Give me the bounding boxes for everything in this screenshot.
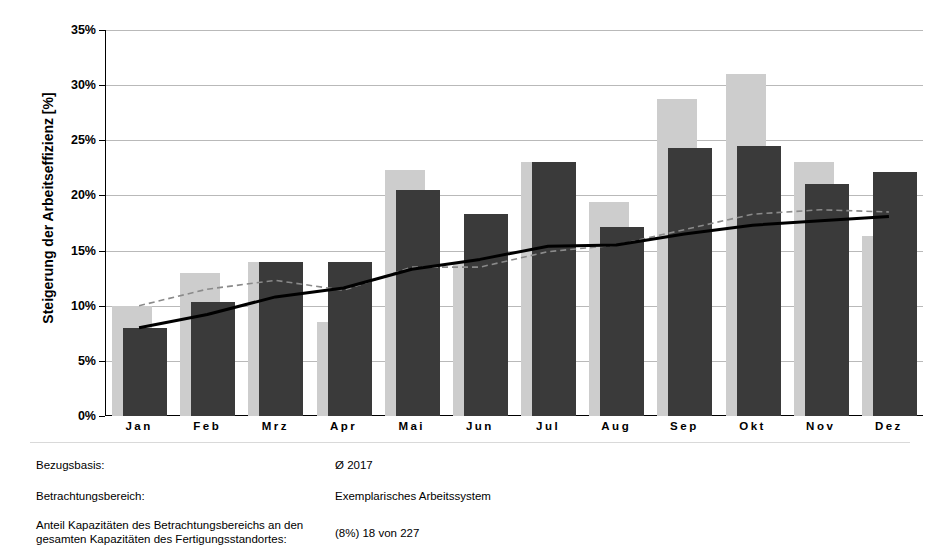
x-tick-label-okt: Okt xyxy=(719,420,787,432)
y-tick-label: 15% xyxy=(52,246,96,256)
plot-region xyxy=(105,30,923,416)
chart-page: Steigerung der Arbeitseffizienz [%] 0%5%… xyxy=(0,0,940,559)
average-lines xyxy=(105,30,923,416)
x-tick-label-dez: Dez xyxy=(855,420,923,432)
footer-label-kapazitaetsanteil: Anteil Kapazitäten des Betrachtungsberei… xyxy=(36,518,326,546)
y-tick-label: 20% xyxy=(52,190,96,200)
actual-average-polyline xyxy=(139,216,889,327)
x-tick-label-aug: Aug xyxy=(582,420,650,432)
x-tick-label-nov: Nov xyxy=(787,420,855,432)
x-tick-label-jul: Jul xyxy=(514,420,582,432)
footer-label-bezugsbasis: Bezugsbasis: xyxy=(36,458,104,472)
chart-area: Steigerung der Arbeitseffizienz [%] 0%5%… xyxy=(0,0,940,440)
footer-value-betrachtungsbereich: Exemplarisches Arbeitssystem xyxy=(335,489,491,503)
footer-value-bezugsbasis: Ø 2017 xyxy=(335,458,373,472)
x-tick-label-mrz: Mrz xyxy=(241,420,309,432)
x-tick-label-feb: Feb xyxy=(173,420,241,432)
x-tick-label-sep: Sep xyxy=(650,420,718,432)
footer-divider xyxy=(30,442,910,443)
footer-label-betrachtungsbereich: Betrachtungsbereich: xyxy=(36,489,145,503)
y-tick-mark xyxy=(99,416,105,417)
x-tick-label-jan: Jan xyxy=(105,420,173,432)
y-tick-label: 0% xyxy=(52,411,96,421)
x-tick-label-apr: Apr xyxy=(310,420,378,432)
y-tick-label: 25% xyxy=(52,135,96,145)
y-axis-title: Steigerung der Arbeitseffizienz [%] xyxy=(40,8,56,408)
y-tick-label: 30% xyxy=(52,80,96,90)
x-tick-label-mai: Mai xyxy=(378,420,446,432)
y-tick-label: 35% xyxy=(52,25,96,35)
y-tick-label: 10% xyxy=(52,301,96,311)
y-tick-label: 5% xyxy=(52,356,96,366)
footer-info-block: Bezugsbasis: Ø 2017 Betrachtungsbereich:… xyxy=(0,440,940,559)
footer-value-kapazitaetsanteil: (8%) 18 von 227 xyxy=(335,526,419,540)
x-tick-label-jun: Jun xyxy=(446,420,514,432)
x-axis-tick-labels: JanFebMrzAprMaiJunJulAugSepOktNovDez xyxy=(105,420,923,440)
